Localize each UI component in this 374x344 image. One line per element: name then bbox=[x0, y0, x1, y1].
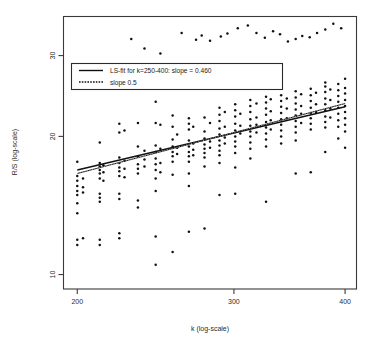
data-point bbox=[280, 106, 283, 109]
data-point bbox=[324, 115, 327, 118]
data-point bbox=[99, 197, 102, 200]
data-point bbox=[76, 185, 79, 188]
legend: LS-fit for k=250-400: slope = 0.460 slop… bbox=[72, 64, 283, 90]
data-point bbox=[154, 157, 157, 160]
data-point bbox=[344, 87, 347, 90]
data-point bbox=[188, 123, 191, 126]
data-point bbox=[344, 111, 347, 114]
data-point bbox=[188, 139, 191, 142]
figure-background bbox=[0, 0, 374, 344]
data-point bbox=[265, 145, 268, 148]
data-point bbox=[294, 120, 297, 123]
data-point bbox=[329, 88, 332, 91]
data-point bbox=[203, 156, 206, 159]
data-point bbox=[195, 38, 198, 41]
data-point bbox=[76, 180, 79, 183]
data-point bbox=[209, 40, 212, 43]
data-point bbox=[344, 78, 347, 81]
data-point bbox=[192, 154, 195, 157]
data-point bbox=[340, 27, 343, 30]
data-point bbox=[234, 129, 237, 132]
data-point bbox=[218, 133, 221, 136]
data-point bbox=[82, 191, 85, 194]
data-point bbox=[118, 198, 121, 201]
data-point bbox=[344, 117, 347, 120]
data-point bbox=[294, 139, 297, 142]
data-point bbox=[154, 264, 157, 267]
data-point bbox=[188, 151, 191, 154]
data-point bbox=[218, 127, 221, 130]
data-point bbox=[344, 124, 347, 127]
data-point bbox=[99, 239, 102, 242]
data-point bbox=[218, 120, 221, 123]
x-tick-label: 400 bbox=[339, 298, 351, 305]
y-tick-label: 20 bbox=[49, 132, 56, 140]
data-point bbox=[279, 33, 282, 36]
data-point bbox=[265, 132, 268, 135]
data-point bbox=[171, 161, 174, 164]
data-point bbox=[294, 125, 297, 128]
data-point bbox=[337, 125, 340, 128]
data-point bbox=[249, 141, 252, 144]
data-point bbox=[192, 125, 195, 128]
y-tick-label: 30 bbox=[49, 52, 56, 60]
data-point bbox=[234, 192, 237, 195]
data-point bbox=[344, 130, 347, 133]
data-point bbox=[310, 128, 313, 131]
data-point bbox=[270, 119, 273, 122]
data-point bbox=[118, 166, 121, 169]
data-point bbox=[287, 40, 290, 43]
data-point bbox=[118, 192, 121, 195]
plot-canvas: 200300400 102030 k (log-scale) R/S (log-… bbox=[0, 0, 374, 344]
data-point bbox=[188, 172, 191, 175]
data-point bbox=[332, 22, 335, 25]
x-tick-label: 300 bbox=[228, 298, 240, 305]
data-point bbox=[188, 145, 191, 148]
data-point bbox=[344, 146, 347, 149]
data-point bbox=[280, 112, 283, 115]
data-point bbox=[209, 140, 212, 143]
data-point bbox=[99, 172, 102, 175]
data-point bbox=[270, 128, 273, 131]
data-point bbox=[237, 27, 240, 30]
data-point bbox=[203, 143, 206, 146]
data-point bbox=[265, 138, 268, 141]
data-point bbox=[154, 235, 157, 238]
data-point bbox=[255, 124, 258, 127]
data-point bbox=[82, 186, 85, 189]
data-point bbox=[224, 125, 227, 128]
data-point bbox=[209, 146, 212, 149]
data-point bbox=[188, 185, 191, 188]
data-point bbox=[154, 100, 157, 103]
data-point bbox=[255, 32, 258, 35]
data-point bbox=[203, 165, 206, 168]
data-point bbox=[99, 141, 102, 144]
data-point bbox=[171, 125, 174, 128]
data-point bbox=[337, 95, 340, 98]
data-point bbox=[265, 113, 268, 116]
data-point bbox=[137, 168, 140, 171]
data-point bbox=[310, 106, 313, 109]
data-point bbox=[234, 152, 237, 155]
data-point bbox=[218, 113, 221, 116]
data-point bbox=[329, 99, 332, 102]
data-point bbox=[99, 201, 102, 204]
data-point bbox=[280, 94, 283, 97]
data-point bbox=[294, 96, 297, 99]
data-point bbox=[99, 192, 102, 195]
data-point bbox=[226, 32, 229, 35]
data-point bbox=[234, 140, 237, 143]
data-point bbox=[180, 32, 183, 35]
data-point bbox=[234, 115, 237, 118]
data-point bbox=[239, 113, 242, 116]
data-point bbox=[118, 156, 121, 159]
data-point bbox=[337, 137, 340, 140]
data-point bbox=[203, 116, 206, 119]
data-point bbox=[324, 97, 327, 100]
data-point bbox=[249, 135, 252, 138]
data-point bbox=[159, 52, 162, 55]
data-point bbox=[171, 173, 174, 176]
data-point bbox=[154, 163, 157, 166]
data-point bbox=[118, 123, 121, 126]
data-point bbox=[234, 135, 237, 138]
